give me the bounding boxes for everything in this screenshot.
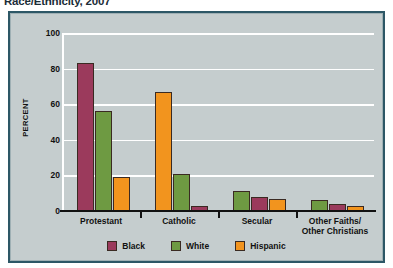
legend-label: Black	[122, 241, 145, 251]
bar-group	[298, 33, 376, 211]
y-axis-tick-label: 20	[34, 170, 60, 180]
legend-label: White	[186, 241, 209, 251]
legend-swatch-icon	[235, 241, 245, 251]
legend-swatch-icon	[107, 241, 117, 251]
x-axis-tick	[218, 210, 220, 218]
x-axis-category-label: Catholic	[140, 216, 218, 226]
bar-white-2	[233, 191, 250, 211]
bar-hispanic-1	[155, 92, 172, 211]
y-axis-tick-label: 40	[34, 135, 60, 145]
bar-group	[220, 33, 298, 211]
chart-title: Race/Ethnicity, 2007	[4, 0, 110, 7]
y-axis-tick-label: 0	[34, 206, 60, 216]
legend-item[interactable]: Hispanic	[235, 241, 285, 251]
bar-black-2	[251, 197, 268, 211]
x-axis-category-label: Other Faiths/ Other Christians	[296, 216, 374, 236]
bar-white-0	[95, 111, 112, 211]
x-axis-category-label: Secular	[218, 216, 296, 226]
y-axis-tick-labels: 020406080100	[24, 33, 60, 211]
y-axis-tick-label: 60	[34, 99, 60, 109]
bar-hispanic-0	[113, 177, 130, 211]
x-axis-category-label: Protestant	[62, 216, 140, 226]
bar-white-1	[173, 174, 190, 211]
y-axis-tick-label: 100	[34, 28, 60, 38]
x-axis-tick	[296, 210, 298, 218]
bar-group	[142, 33, 220, 211]
bar-black-0	[77, 63, 94, 211]
legend-swatch-icon	[171, 241, 181, 251]
chart-frame: PERCENT 020406080100 BlackWhiteHispanic …	[8, 11, 385, 263]
legend-item[interactable]: White	[171, 241, 209, 251]
x-axis-tick	[140, 210, 142, 218]
legend: BlackWhiteHispanic	[10, 241, 383, 251]
legend-label: Hispanic	[250, 241, 285, 251]
legend-item[interactable]: Black	[107, 241, 145, 251]
plot-area	[62, 33, 374, 211]
y-axis-tick-label: 80	[34, 64, 60, 74]
bar-group	[64, 33, 142, 211]
